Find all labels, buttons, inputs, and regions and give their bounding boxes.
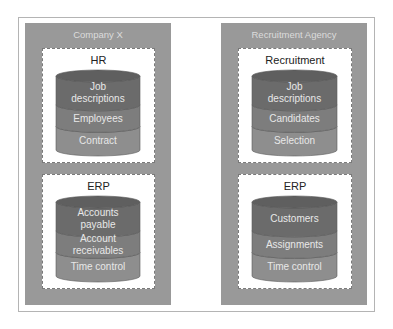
system-hr: HR Job descriptionsEmployeesContract <box>42 48 155 163</box>
cylinder-top <box>252 196 337 208</box>
system-recruitment: Recruitment Job descriptionsCandidatesSe… <box>238 48 352 163</box>
cylinder-top <box>252 70 337 82</box>
cylinder-band-label: Assignments <box>252 239 337 251</box>
system-erp: ERP Accounts payableAccount receivablesT… <box>42 174 155 289</box>
cylinder-band-label: Accounts payable <box>56 207 140 231</box>
org-company-x: Company X HR Job descriptionsEmployeesCo… <box>25 23 171 305</box>
cylinder-top <box>56 70 140 82</box>
cylinder-band-label: Job descriptions <box>252 81 337 105</box>
database-cylinder: Accounts payableAccount receivablesTime … <box>56 196 140 282</box>
system-title: ERP <box>43 180 154 192</box>
cylinder-band-label: Contract <box>56 135 140 147</box>
system-erp: ERP CustomersAssignmentsTime control <box>238 174 352 289</box>
cylinder-band-label: Time control <box>252 261 337 273</box>
org-title: Recruitment Agency <box>221 29 367 40</box>
cylinder-band-label: Candidates <box>252 113 337 125</box>
database-cylinder: CustomersAssignmentsTime control <box>252 196 337 282</box>
database-cylinder: Job descriptionsEmployeesContract <box>56 70 140 156</box>
system-title: ERP <box>239 180 351 192</box>
system-title: HR <box>43 54 154 66</box>
org-recruitment-agency: Recruitment Agency Recruitment Job descr… <box>221 23 367 305</box>
cylinder-band-label: Job descriptions <box>56 81 140 105</box>
org-title: Company X <box>25 29 171 40</box>
cylinder-band-label: Account receivables <box>56 233 140 257</box>
database-cylinder: Job descriptionsCandidatesSelection <box>252 70 337 156</box>
cylinder-band-label: Employees <box>56 113 140 125</box>
cylinder-band-label: Selection <box>252 135 337 147</box>
cylinder-top <box>56 196 140 208</box>
cylinder-band-label: Time control <box>56 261 140 273</box>
system-title: Recruitment <box>239 54 351 66</box>
cylinder-band-label: Customers <box>252 213 337 225</box>
